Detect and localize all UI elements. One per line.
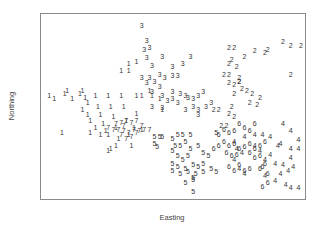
data-point-cluster-4: 4 <box>278 170 282 177</box>
data-point-cluster-6: 6 <box>248 140 252 147</box>
data-point-cluster-3: 3 <box>153 78 157 85</box>
data-point-cluster-1: 1 <box>86 99 90 106</box>
data-point-cluster-3: 3 <box>191 103 195 110</box>
data-point-cluster-5: 5 <box>201 160 205 167</box>
data-point-cluster-2: 2 <box>258 94 262 101</box>
data-point-cluster-1: 1 <box>106 92 110 99</box>
data-point-cluster-2: 2 <box>232 81 236 88</box>
data-point-cluster-5: 5 <box>186 152 190 159</box>
data-point-cluster-3: 3 <box>150 103 154 110</box>
data-point-cluster-3: 3 <box>178 90 182 97</box>
data-point-cluster-2: 2 <box>245 87 249 94</box>
data-point-cluster-2: 2 <box>266 46 270 53</box>
data-point-cluster-5: 5 <box>171 147 175 154</box>
data-point-cluster-4: 4 <box>268 133 272 140</box>
data-point-cluster-2: 2 <box>235 63 239 70</box>
data-point-cluster-7: 7 <box>135 117 139 124</box>
data-point-cluster-5: 5 <box>191 188 195 195</box>
data-point-cluster-5: 5 <box>171 167 175 174</box>
data-point-cluster-2: 2 <box>237 78 241 85</box>
data-point-cluster-2: 2 <box>232 44 236 51</box>
data-point-cluster-3: 3 <box>183 106 187 113</box>
data-point-cluster-5: 5 <box>191 174 195 181</box>
data-point-cluster-5: 5 <box>176 163 180 170</box>
data-point-cluster-3: 3 <box>160 104 164 111</box>
data-point-cluster-4: 4 <box>273 160 277 167</box>
data-point-cluster-6: 6 <box>260 183 264 190</box>
data-point-cluster-1: 1 <box>52 95 56 102</box>
x-axis-label: Easting <box>159 213 184 222</box>
data-point-cluster-6: 6 <box>243 143 247 150</box>
data-point-cluster-5: 5 <box>171 135 175 142</box>
data-point-cluster-1: 1 <box>109 145 113 152</box>
data-point-cluster-6: 6 <box>248 127 252 134</box>
data-point-cluster-6: 6 <box>263 160 267 167</box>
data-point-cluster-1: 1 <box>127 60 131 67</box>
data-point-cluster-5: 5 <box>178 170 182 177</box>
data-point-cluster-7: 7 <box>147 126 151 133</box>
data-point-cluster-1: 1 <box>96 103 100 110</box>
data-point-cluster-2: 2 <box>289 42 293 49</box>
data-point-cluster-4: 4 <box>291 163 295 170</box>
data-point-cluster-1: 1 <box>127 67 131 74</box>
data-point-cluster-3: 3 <box>140 74 144 81</box>
data-point-cluster-5: 5 <box>183 179 187 186</box>
data-point-cluster-6: 6 <box>243 124 247 131</box>
data-point-cluster-1: 1 <box>135 58 139 65</box>
data-point-cluster-3: 3 <box>158 71 162 78</box>
data-point-cluster-2: 2 <box>299 42 303 49</box>
data-point-cluster-4: 4 <box>284 181 288 188</box>
data-point-cluster-3: 3 <box>160 53 164 60</box>
data-point-cluster-7: 7 <box>129 119 133 126</box>
data-point-cluster-6: 6 <box>237 161 241 168</box>
data-points: 1111111111111111111111111111111111111111… <box>47 22 303 195</box>
data-point-cluster-5: 5 <box>196 142 200 149</box>
data-point-cluster-5: 5 <box>178 142 182 149</box>
data-point-cluster-3: 3 <box>196 92 200 99</box>
data-point-cluster-6: 6 <box>217 142 221 149</box>
data-point-cluster-3: 3 <box>150 88 154 95</box>
data-point-cluster-5: 5 <box>201 149 205 156</box>
data-point-cluster-1: 1 <box>129 142 133 149</box>
data-point-cluster-7: 7 <box>111 126 115 133</box>
data-point-cluster-6: 6 <box>227 163 231 170</box>
data-point-cluster-7: 7 <box>129 133 133 140</box>
data-point-cluster-5: 5 <box>207 152 211 159</box>
data-point-cluster-6: 6 <box>266 170 270 177</box>
data-point-cluster-3: 3 <box>140 22 144 29</box>
data-point-cluster-3: 3 <box>142 46 146 53</box>
data-point-cluster-1: 1 <box>88 129 92 136</box>
data-point-cluster-4: 4 <box>296 136 300 143</box>
data-point-cluster-6: 6 <box>266 179 270 186</box>
data-point-cluster-7: 7 <box>135 129 139 136</box>
data-point-cluster-6: 6 <box>232 167 236 174</box>
data-point-cluster-2: 2 <box>227 44 231 51</box>
data-point-cluster-6: 6 <box>225 149 229 156</box>
data-point-cluster-6: 6 <box>253 120 257 127</box>
data-point-cluster-1: 1 <box>106 131 110 138</box>
data-point-cluster-1: 1 <box>70 95 74 102</box>
data-point-cluster-2: 2 <box>253 47 257 54</box>
data-point-cluster-2: 2 <box>230 103 234 110</box>
data-point-cluster-2: 2 <box>227 79 231 86</box>
data-point-cluster-5: 5 <box>181 156 185 163</box>
data-point-cluster-5: 5 <box>153 133 157 140</box>
data-point-cluster-3: 3 <box>171 95 175 102</box>
data-point-cluster-4: 4 <box>296 184 300 191</box>
data-point-cluster-3: 3 <box>165 97 169 104</box>
data-point-cluster-6: 6 <box>235 151 239 158</box>
data-point-cluster-5: 5 <box>189 145 193 152</box>
data-point-cluster-4: 4 <box>268 151 272 158</box>
data-point-cluster-1: 1 <box>114 142 118 149</box>
data-point-cluster-1: 1 <box>135 110 139 117</box>
data-point-cluster-3: 3 <box>147 44 151 51</box>
data-point-cluster-6: 6 <box>248 149 252 156</box>
data-point-cluster-6: 6 <box>258 142 262 149</box>
data-point-cluster-4: 4 <box>243 133 247 140</box>
data-point-cluster-6: 6 <box>263 138 267 145</box>
data-point-cluster-4: 4 <box>276 142 280 149</box>
data-point-cluster-6: 6 <box>230 152 234 159</box>
data-point-cluster-2: 2 <box>248 99 252 106</box>
data-point-cluster-2: 2 <box>217 106 221 113</box>
data-point-cluster-5: 5 <box>209 165 213 172</box>
